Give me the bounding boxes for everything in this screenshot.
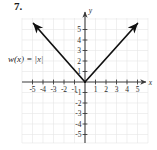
y-tick-label-pos2: 2 <box>77 57 81 66</box>
absolute-value-graph-figure: 7. w(x) = |x| <box>0 0 157 150</box>
y-tick-label-neg4: -4 <box>75 120 81 129</box>
x-axis-name: x <box>148 78 153 87</box>
coordinate-plane: -5 -4 -3 -2 -1 1 2 3 4 5 5 4 3 2 1 -1 -2… <box>0 0 157 150</box>
curve-right-branch <box>85 24 138 83</box>
y-tick-label-pos3: 3 <box>77 46 81 55</box>
x-tick-label-neg3: -3 <box>50 85 56 94</box>
y-tick-label-neg1: -1 <box>75 88 81 97</box>
y-tick-label-pos5: 5 <box>77 25 81 34</box>
y-axis-name: y <box>88 6 93 15</box>
x-tick-label-neg5: -5 <box>29 85 35 94</box>
y-tick-label-neg5: -5 <box>75 130 81 139</box>
x-tick-label-pos1: 1 <box>94 85 98 94</box>
y-tick-label-pos4: 4 <box>77 36 81 45</box>
y-tick-label-neg2: -2 <box>75 99 81 108</box>
x-tick-label-neg4: -4 <box>40 85 46 94</box>
x-tick-label-pos4: 4 <box>125 85 129 94</box>
x-tick-label-pos2: 2 <box>104 85 108 94</box>
x-tick-label-pos5: 5 <box>136 85 140 94</box>
x-tick-label-pos3: 3 <box>115 85 119 94</box>
y-tick-label-neg3: -3 <box>75 109 81 118</box>
x-tick-label-neg2: -2 <box>61 85 67 94</box>
